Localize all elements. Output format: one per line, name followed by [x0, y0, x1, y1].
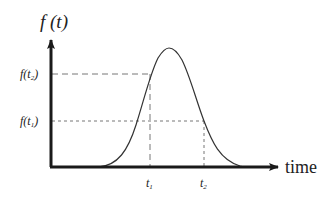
f-t1-label: f(t1) [20, 114, 38, 129]
t1-label: t1 [146, 176, 153, 191]
f-t2-label: f(t2) [20, 67, 38, 82]
diagram-canvas: f (t) time f(t2) f(t1) t1 t2 [0, 0, 329, 199]
x-axis-label: time [285, 157, 317, 177]
t2-label: t2 [200, 176, 207, 191]
bell-curve [98, 48, 244, 167]
y-axis-label: f (t) [40, 11, 68, 33]
guide-lines [52, 74, 204, 167]
